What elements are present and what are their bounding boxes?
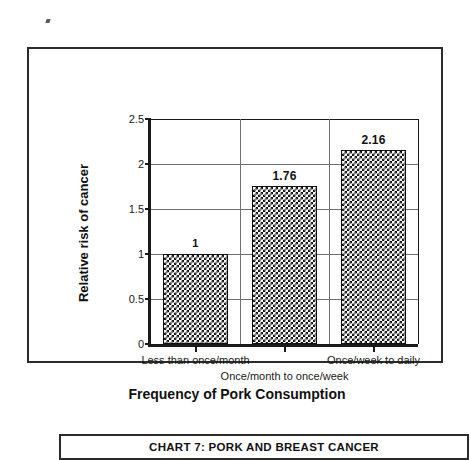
gridline-vertical — [329, 119, 330, 344]
plot-area: 00.511.522.51Less than once/month1.76Onc… — [148, 119, 418, 347]
bar-value-label: 1.76 — [255, 169, 315, 183]
y-axis-tick-label: 2.5 — [129, 113, 144, 125]
bar — [341, 150, 405, 344]
x-axis-tick-mark — [373, 344, 375, 352]
y-axis-tick-mark — [145, 343, 151, 345]
bar — [163, 254, 227, 344]
gridline-horizontal — [151, 119, 418, 120]
x-axis-tick-label: Once/month to once/week — [221, 370, 349, 382]
bar-value-label: 2.16 — [344, 133, 404, 147]
y-axis-tick-mark — [145, 118, 151, 120]
gridline-vertical — [418, 119, 419, 344]
chart-frame: Relative risk of cancer 00.511.522.51Les… — [27, 47, 443, 363]
x-axis-title: Frequency of Pork Consumption — [29, 386, 445, 402]
y-axis-tick-mark — [145, 163, 151, 165]
x-axis-tick-label: Once/week to daily — [327, 354, 420, 366]
y-axis-tick-mark — [145, 253, 151, 255]
chart-caption-box: CHART 7: PORK AND BREAST CANCER — [59, 434, 469, 460]
y-axis-tick-label: 2 — [138, 158, 144, 170]
y-axis-tick-label: 1 — [138, 248, 144, 260]
bar — [252, 186, 316, 344]
x-axis-tick-label: Less than once/month — [141, 354, 249, 366]
y-axis-tick-mark — [145, 298, 151, 300]
scan-artifact-speck — [45, 19, 50, 23]
y-axis-tick-label: 0.5 — [129, 293, 144, 305]
y-axis-tick-label: 1.5 — [129, 203, 144, 215]
y-axis-tick-label: 0 — [138, 338, 144, 350]
chart-caption-text: CHART 7: PORK AND BREAST CANCER — [149, 441, 379, 453]
plot-inner: 00.511.522.51Less than once/month1.76Onc… — [151, 119, 418, 344]
x-axis-tick-mark — [284, 344, 286, 352]
y-axis-tick-mark — [145, 208, 151, 210]
x-axis-tick-mark — [195, 344, 197, 352]
y-axis-title: Relative risk of cancer — [75, 119, 93, 347]
bar-value-label: 1 — [166, 237, 226, 249]
gridline-vertical — [240, 119, 241, 344]
